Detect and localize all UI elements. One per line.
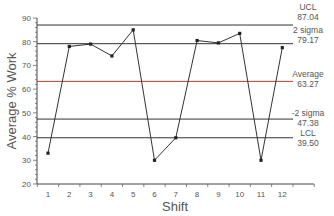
x-tick-label: 8 (195, 190, 200, 199)
refline-ucl-value: 87.04 (297, 12, 319, 22)
data-point (217, 41, 220, 44)
x-tick-label: 1 (46, 190, 51, 199)
x-tick-label: 3 (88, 190, 93, 199)
y-tick-label: 80 (22, 38, 31, 47)
x-tick-label: 4 (110, 190, 115, 199)
x-tick-label: 6 (152, 190, 157, 199)
refline-2-sigma-value: 47.38 (297, 118, 319, 128)
y-tick-label: 50 (22, 109, 31, 118)
control-chart: 2030405060708090123456789101112 UCL87.04… (0, 0, 334, 216)
refline-lcl-label: LCL (300, 128, 316, 138)
series-line (48, 30, 282, 160)
data-point (281, 46, 284, 49)
x-tick-label: 12 (278, 190, 287, 199)
x-axis-label: Shift (162, 199, 188, 214)
data-point (238, 32, 241, 35)
reference-labels: UCL87.042 sigma79.17Average63.27-2 sigma… (292, 2, 325, 148)
y-tick-label: 20 (22, 180, 31, 189)
data-point (46, 152, 49, 155)
data-point (174, 136, 177, 139)
y-tick-label: 90 (22, 14, 31, 23)
x-tick-label: 10 (235, 190, 244, 199)
axes: 2030405060708090123456789101112 (22, 14, 314, 199)
y-tick-label: 60 (22, 85, 31, 94)
refline-2-sigma-value: 79.17 (297, 35, 319, 45)
y-tick-label: 40 (22, 133, 31, 142)
refline-lcl-value: 39.50 (297, 138, 319, 148)
data-point (196, 39, 199, 42)
x-tick-label: 2 (67, 190, 72, 199)
refline-average-value: 63.27 (297, 79, 319, 89)
x-tick-label: 5 (131, 190, 136, 199)
y-axis-label: Average % Work (4, 52, 19, 150)
y-tick-label: 30 (22, 156, 31, 165)
data-point (259, 159, 262, 162)
x-tick-label: 7 (174, 190, 179, 199)
data-series (46, 28, 284, 162)
refline-2-sigma-label: 2 sigma (293, 25, 323, 35)
x-tick-label: 11 (257, 190, 266, 199)
data-point (68, 45, 71, 48)
data-point (153, 159, 156, 162)
refline-ucl-label: UCL (299, 2, 316, 12)
data-point (132, 28, 135, 31)
data-point (110, 54, 113, 57)
x-tick-label: 9 (216, 190, 221, 199)
data-point (89, 42, 92, 45)
refline-2-sigma-label: -2 sigma (292, 108, 325, 118)
refline-average-label: Average (292, 69, 324, 79)
y-tick-label: 70 (22, 61, 31, 70)
